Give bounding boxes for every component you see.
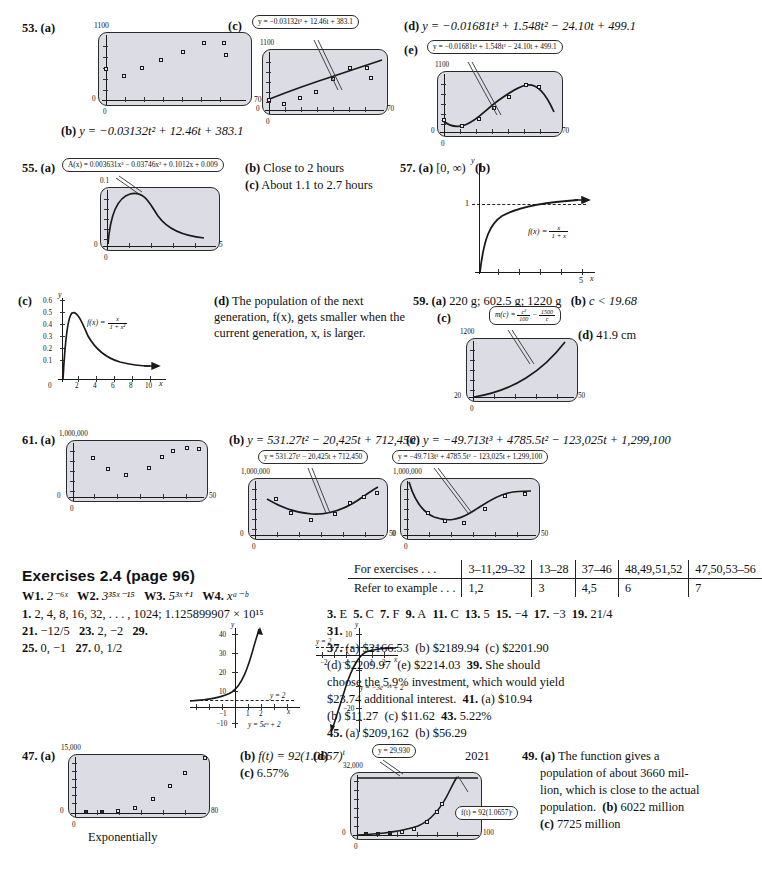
- data-point: [116, 809, 120, 813]
- problem-53b: (b) y = −0.03132t² + 12.46t + 383.1: [61, 123, 243, 139]
- graph-61b: 1,000,000 0 0 50: [238, 468, 403, 560]
- answer-21-23-29: 21. −12/5 23. 2, −2 29.: [22, 623, 148, 639]
- answer-47d-year: 2021: [465, 748, 490, 764]
- callout-leader: [390, 450, 555, 565]
- data-point: [202, 41, 206, 45]
- callout-leader: [452, 308, 592, 418]
- data-point: [222, 41, 226, 45]
- axis-label-ymin: 0: [92, 95, 96, 103]
- problem-57c-label: (c): [18, 293, 32, 309]
- function-curve: [40, 292, 190, 392]
- data-point: [84, 810, 88, 814]
- axis-label-ymax: 1,000,000: [59, 430, 88, 438]
- answer-47c: (c) 6.57%: [240, 765, 289, 781]
- problem-57a: 57. (a) [0, ∞) (b): [400, 160, 490, 176]
- function-curve: [478, 158, 688, 288]
- axis-label-ymax: 15,000: [61, 744, 81, 752]
- problem-53e-label: (e): [404, 42, 418, 58]
- data-point: [168, 784, 172, 788]
- problem-55-label: 55. (a): [22, 160, 55, 176]
- graph-53e: 1100 0 0 70: [427, 62, 577, 152]
- problem-53-label: 53. (a): [22, 20, 55, 36]
- warmup-answers: W1. 2⁻⁶ˣ W2. 3³⁵ˣ⁻¹⁵ W3. 5³ˣ⁺¹ W4. xᵃ⁻ᵇ: [22, 588, 248, 604]
- data-point: [147, 466, 151, 470]
- data-point: [185, 446, 189, 450]
- table-cell: 37–46: [575, 560, 618, 579]
- answer-47d-label: (d): [313, 748, 328, 764]
- table-cell: 3: [532, 579, 575, 598]
- axis-label-xmax: 80: [211, 807, 218, 815]
- data-point: [124, 473, 128, 477]
- callout-leader: [238, 450, 403, 565]
- table-cell: 1,2: [462, 579, 532, 598]
- axis-label-y: y: [471, 156, 475, 165]
- problem-53d: (d) y = −0.01681t³ + 1.548t² − 24.10t + …: [404, 18, 636, 34]
- data-point: [159, 58, 163, 62]
- data-point: [197, 447, 201, 451]
- callout-leader: [252, 22, 402, 142]
- answer-49c: (c) 7725 million: [540, 816, 621, 832]
- graph-61c: 1,000,000 0 0 50: [390, 468, 555, 560]
- graph-53c: 1100 0 0 70: [252, 40, 402, 130]
- data-point: [203, 756, 207, 760]
- answer-25-27: 25. 0, −1 27. 0, 1/2: [22, 640, 122, 656]
- axis-label-xmin: 0: [103, 108, 107, 116]
- data-point: [181, 50, 185, 54]
- answer-37de-39: (d) $2209.97 (e) $2214.03 39. She should: [327, 657, 540, 673]
- data-point: [104, 67, 108, 71]
- problem-61-label: 61. (a): [22, 432, 55, 448]
- answer-39-cont1: choose the 5.9% investment, which would …: [327, 674, 564, 690]
- graph-53a: 1100 0 0 70: [84, 22, 260, 118]
- answer-49a-line2: population of about 3660 mil-: [540, 765, 689, 781]
- answer-39-cont2: $23.74 additional interest. 41. (a) $10.…: [327, 691, 532, 707]
- section-heading: Exercises 2.4 (page 96): [22, 567, 195, 585]
- function-formula-57b: f(x) = x1 + x: [528, 224, 568, 239]
- data-point: [122, 74, 126, 78]
- table-row-label: Refer to example . . .: [348, 579, 462, 598]
- table-cell: 7: [689, 579, 762, 598]
- answer-49a-line4: population. (b) 6022 million: [540, 799, 684, 815]
- reference-table: For exercises . . . 3–11,29–32 13–28 37–…: [348, 560, 762, 597]
- answer-49a-line3: lion, which is close to the actual: [540, 782, 699, 798]
- data-point: [160, 455, 164, 459]
- problem-55b: (b) Close to 2 hours: [245, 160, 344, 176]
- table-cell: 48,49,51,52: [618, 560, 688, 579]
- problem-53c-label: (c): [228, 18, 242, 34]
- table-cell: 6: [618, 579, 688, 598]
- axis-label-ymin: 0: [60, 807, 64, 815]
- table-row-label: For exercises . . .: [348, 560, 462, 579]
- table-cell: 3–11,29–32: [462, 560, 532, 579]
- table-cell: 47,50,53–56: [689, 560, 762, 579]
- problem-61c: (c) y = −49.713t³ + 4785.5t² − 123,025t …: [406, 432, 671, 448]
- data-point: [100, 810, 104, 814]
- data-point: [106, 467, 110, 471]
- data-point: [183, 771, 187, 775]
- graph-47a: 15,000 0 0 80: [58, 744, 228, 836]
- answer-41bc-43: (b) $11.27 (c) $11.62 43. 5.22%: [327, 708, 492, 724]
- axis-label-xmin: 0: [72, 821, 76, 829]
- table-cell: 13–28: [532, 560, 575, 579]
- data-point: [224, 53, 228, 57]
- data-point: [171, 449, 175, 453]
- data-point: [133, 806, 137, 810]
- data-point: [140, 66, 144, 70]
- data-point: [151, 797, 155, 801]
- problem-59c-label: (c): [437, 310, 451, 326]
- problem-55c: (c) About 1.1 to 2.7 hours: [245, 177, 373, 193]
- axis-label-xmin: 0: [70, 505, 74, 513]
- function-formula-57c: f(x) = x1 + x²: [87, 316, 127, 331]
- axis-label-ymin: 0: [57, 492, 61, 500]
- graph-57c: y 0.6 0.5 0.4 0.3 0.2 0.1 0 2 4 6 8 10 x…: [40, 292, 190, 392]
- data-point: [91, 456, 95, 460]
- graph-55a: 0.1 0 0 5: [92, 178, 232, 268]
- callout-leader: [92, 158, 232, 268]
- problem-57d: (d) The population of the next generatio…: [214, 293, 410, 341]
- answer-47-note: Exponentially: [88, 829, 158, 845]
- graph-61a: 1,000,000 0 0 50: [54, 430, 224, 522]
- axis-label-ymax: 1100: [94, 21, 109, 30]
- answer-37: 37. (a) $2166.53 (b) $2189.94 (c) $2201.…: [327, 640, 549, 656]
- callout-47d-2: f(t) = 92(1.0657)ᵗ: [455, 806, 518, 820]
- answer-47b: (b) f(t) = 92(1.0657)t: [240, 748, 345, 764]
- answer-45: 45. (a) $209,162 (b) $56.29: [327, 725, 467, 741]
